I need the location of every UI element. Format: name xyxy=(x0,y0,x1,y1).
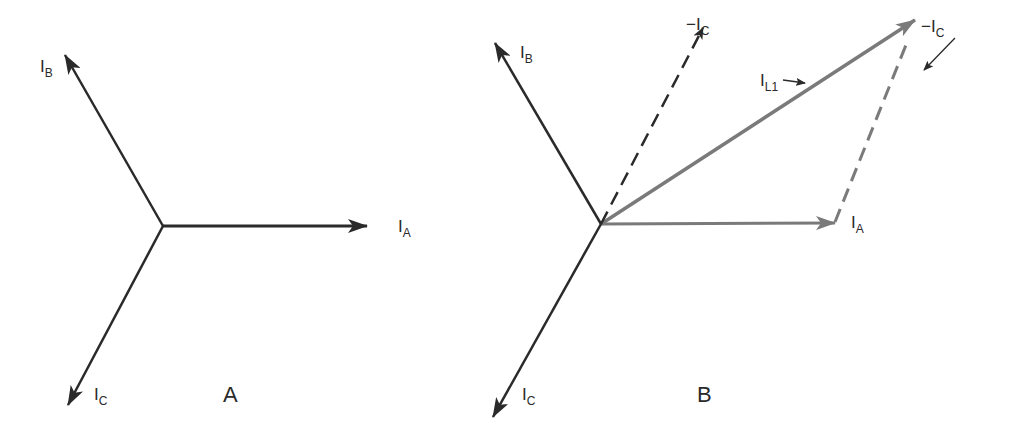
vector-ic-b xyxy=(493,224,601,417)
caption-a: A xyxy=(223,382,238,407)
vector-il1-b xyxy=(601,20,915,224)
label-ia-b: IA xyxy=(851,213,864,236)
vector-neg-ic-translated-b xyxy=(835,40,908,222)
vector-ic-a xyxy=(68,226,163,405)
vector-ib-a xyxy=(65,55,163,226)
label-il1-b: IL1 xyxy=(760,71,778,94)
diagram-a: IA IB IC A xyxy=(40,55,411,408)
vector-ib-b xyxy=(495,43,601,224)
leader-arrow-neg-ic xyxy=(924,38,955,70)
label-neg-ic-b: −IC xyxy=(686,15,710,38)
leader-arrow-il1 xyxy=(783,80,805,83)
vector-neg-ic-b xyxy=(601,28,703,224)
label-ic-b: IC xyxy=(522,385,536,408)
vector-ia-b xyxy=(601,223,835,224)
label-neg-ic-translated-b: −IC xyxy=(921,17,945,40)
label-ic-a: IC xyxy=(94,385,108,408)
caption-b: B xyxy=(697,382,712,407)
label-ia-a: IA xyxy=(398,217,411,240)
label-ib-b: IB xyxy=(520,43,533,66)
label-ib-a: IB xyxy=(40,57,53,80)
diagram-b: −IC −IC IB IL1 IA IC B xyxy=(493,15,955,417)
phasor-diagrams: IA IB IC A −IC −IC IB IL1 IA IC B xyxy=(0,0,1029,437)
